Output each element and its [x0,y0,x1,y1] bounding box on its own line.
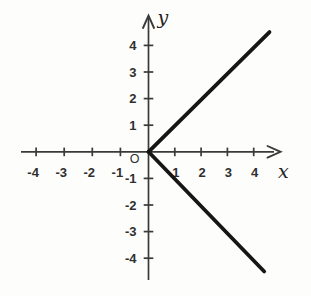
y-tick-label: -4 [125,251,137,266]
coordinate-plane-figure: -4-3-2-11234-4-3-2-11234Oxy [0,0,311,296]
y-tick-label: -3 [125,224,137,239]
y-axis-label: y [157,6,169,28]
x-tick-label: -3 [55,165,67,180]
y-tick-label: -1 [125,171,137,186]
curve-ray-2 [149,152,265,272]
x-tick-label: -1 [112,165,124,180]
x-tick-label: 3 [225,165,232,180]
x-axis-label: x [278,160,289,182]
y-tick-label: 2 [129,91,136,106]
plot-svg: -4-3-2-11234-4-3-2-11234Oxy [0,0,311,296]
x-tick-label: 2 [198,165,205,180]
y-tick-label: -2 [125,198,137,213]
x-tick-label: 4 [251,165,259,180]
x-tick-label: -2 [84,165,96,180]
x-tick-label: -4 [27,165,39,180]
y-tick-label: 3 [129,65,136,80]
curve-ray-1 [149,32,270,152]
y-tick-label: 4 [129,38,137,53]
origin-label: O [130,152,140,166]
y-tick-label: 1 [129,118,136,133]
